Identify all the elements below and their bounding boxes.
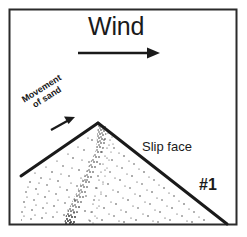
slip-face-label: Slip face — [142, 140, 192, 153]
figure-container: Wind Slip face #1 Movement of sand — [0, 0, 247, 237]
wind-label: Wind — [88, 14, 144, 39]
figure-number-label: #1 — [199, 177, 217, 193]
